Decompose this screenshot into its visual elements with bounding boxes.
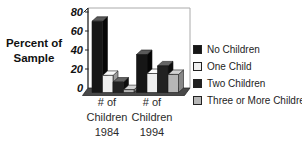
legend-label: Three or More Children [207, 95, 302, 106]
legend-swatch [193, 79, 202, 88]
legend-label: No Children [207, 44, 260, 55]
category-line: Children [82, 110, 132, 125]
legend-label: Two Children [207, 78, 265, 89]
category-line: # of [127, 95, 177, 110]
scanned-bar-chart: Percent of Sample 80 60 40 20 0 # of Chi… [0, 0, 302, 142]
category-label-1984: # of Children 1984 [82, 95, 132, 140]
bar-three-or-more-children-1994 [168, 74, 179, 92]
legend-label: One Child [207, 61, 251, 72]
category-line: Children [127, 110, 177, 125]
legend-swatch [193, 62, 202, 71]
bar-no-children-1994 [137, 55, 148, 93]
bar-no-children-1984 [92, 21, 103, 92]
legend-item-no-children: No Children [193, 41, 302, 58]
legend-swatch [193, 96, 202, 105]
category-line: # of [82, 95, 132, 110]
legend: No Children One Child Two Children Three… [193, 41, 302, 109]
bar-three-or-more-children-1984 [124, 90, 135, 93]
legend-item-one-child: One Child [193, 58, 302, 75]
legend-swatch [193, 45, 202, 54]
category-line: 1994 [127, 125, 177, 140]
bars-group [92, 17, 184, 93]
bar-two-children-1994 [158, 66, 169, 93]
category-label-1994: # of Children 1994 [127, 95, 177, 140]
legend-item-three-or-more-children: Three or More Children [193, 92, 302, 109]
bar-one-child-1994 [147, 74, 158, 93]
bar-two-children-1984 [113, 82, 124, 92]
bar-one-child-1984 [103, 75, 114, 92]
category-line: 1984 [82, 125, 132, 140]
legend-item-two-children: Two Children [193, 75, 302, 92]
